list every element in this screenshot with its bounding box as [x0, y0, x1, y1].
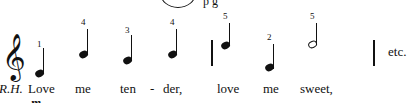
lyric-syllable: der,: [163, 82, 182, 96]
ending-text: etc.: [388, 45, 406, 59]
lyric-syllable: ten: [120, 82, 136, 96]
hand-label: R.H.: [0, 82, 23, 96]
note-head: [78, 49, 89, 59]
fingering-number: 4: [81, 18, 86, 27]
note-head: [264, 62, 275, 72]
barline: [373, 40, 375, 66]
note-stem: [176, 29, 177, 54]
fingering-number: 4: [170, 18, 175, 27]
lyric-syllable: love: [217, 82, 239, 96]
lyric-syllable: me: [263, 82, 279, 96]
note-head: [220, 40, 231, 50]
fingering-number: 5: [223, 12, 228, 21]
dynamic-marking-fragment: m: [31, 95, 41, 103]
partial-circle-decoration: [160, 0, 196, 8]
note-stem: [87, 29, 88, 54]
fingering-number: 3: [125, 26, 130, 35]
barline: [211, 40, 213, 66]
header-fragment-text: p g: [203, 0, 218, 9]
half-note-head: [307, 39, 318, 49]
fingering-number: 1: [37, 40, 42, 49]
note-stem: [43, 48, 44, 73]
treble-clef-icon: 𝄞: [2, 34, 26, 78]
note-stem: [131, 35, 132, 60]
note-head: [167, 49, 178, 59]
note-head: [122, 55, 133, 65]
lyric-syllable: Love: [28, 82, 55, 96]
note-head: [34, 68, 45, 78]
lyric-hyphen: -: [150, 82, 154, 96]
fingering-number: 2: [267, 33, 272, 42]
lyric-syllable: me: [75, 82, 91, 96]
fingering-number: 5: [310, 12, 315, 21]
lyric-syllable: sweet,: [300, 82, 333, 96]
